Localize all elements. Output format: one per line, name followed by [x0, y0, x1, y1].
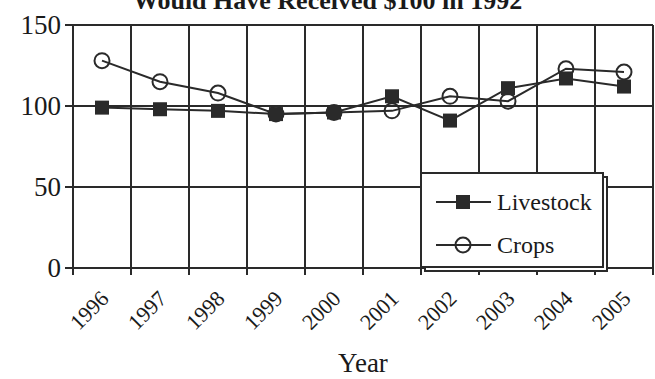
- x-tick-label: 1996: [65, 286, 114, 335]
- x-tick-label: 1997: [123, 286, 172, 335]
- square-marker-icon: [501, 81, 515, 95]
- y-tick-label: 50: [34, 172, 61, 202]
- x-tick-label: 1999: [239, 286, 288, 335]
- square-marker-icon: [456, 195, 470, 209]
- x-tick-label: 2004: [529, 286, 578, 335]
- x-tick-label: 2000: [297, 286, 346, 335]
- legend: LivestockCrops: [421, 173, 607, 271]
- legend-label: Livestock: [497, 189, 592, 215]
- line-chart: 050100150 199619971998199920002001200220…: [0, 0, 655, 379]
- x-tick-label: 1998: [181, 286, 230, 335]
- x-axis-ticks: 1996199719981999200020012002200320042005: [65, 286, 636, 335]
- legend-label: Crops: [497, 232, 554, 258]
- square-marker-icon: [385, 89, 399, 103]
- y-axis-ticks: 050100150: [21, 10, 62, 283]
- x-axis-title: Year: [338, 348, 388, 378]
- x-tick-label: 2003: [471, 286, 520, 335]
- square-marker-icon: [153, 102, 167, 116]
- y-tick-label: 150: [21, 10, 62, 40]
- y-tick-label: 100: [21, 91, 62, 121]
- square-marker-icon: [443, 114, 457, 128]
- square-marker-icon: [617, 80, 631, 94]
- square-marker-icon: [269, 107, 283, 121]
- y-tick-label: 0: [48, 253, 62, 283]
- square-marker-icon: [211, 104, 225, 118]
- square-marker-icon: [95, 101, 109, 115]
- square-marker-icon: [327, 105, 341, 119]
- square-marker-icon: [559, 71, 573, 85]
- x-tick-label: 2001: [355, 286, 404, 335]
- x-tick-label: 2005: [587, 286, 636, 335]
- x-tick-label: 2002: [413, 286, 462, 335]
